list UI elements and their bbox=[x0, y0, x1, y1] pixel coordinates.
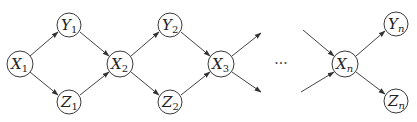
edge-xn-zn bbox=[356, 72, 385, 94]
node-y1: Y1 bbox=[57, 13, 81, 37]
edge-x1-y1 bbox=[30, 32, 58, 56]
edge-open-upper-xn bbox=[303, 30, 334, 56]
node-x3: X3 bbox=[208, 51, 234, 77]
edge-x2-z2 bbox=[131, 72, 159, 95]
node-yn: Yn bbox=[384, 12, 408, 36]
node-z1: Z1 bbox=[57, 90, 81, 114]
ellipsis: ··· bbox=[274, 55, 287, 71]
node-xn: Xn bbox=[332, 51, 358, 77]
edge-open-lower-xn bbox=[301, 72, 334, 92]
edge-y2-x3 bbox=[181, 32, 210, 56]
edge-x3-open-upper bbox=[232, 33, 261, 56]
edge-y1-x2 bbox=[80, 32, 109, 56]
node-y2: Y2 bbox=[158, 13, 182, 37]
edge-x2-y2 bbox=[131, 32, 159, 56]
node-x2: X2 bbox=[107, 51, 133, 77]
node-z2: Z2 bbox=[158, 90, 182, 114]
markov-chain-diagram: ··· X1 Y1 Z1 X2 Y2 Z2 X3 bbox=[0, 0, 417, 122]
nodes: X1 Y1 Z1 X2 Y2 Z2 X3 Xn bbox=[7, 12, 408, 114]
node-zn: Zn bbox=[384, 89, 408, 113]
edge-z2-x3 bbox=[181, 72, 210, 95]
edge-x1-z1 bbox=[30, 72, 58, 95]
edge-x3-open-lower bbox=[232, 72, 261, 92]
node-x1: X1 bbox=[7, 51, 33, 77]
edge-z1-x2 bbox=[80, 72, 109, 95]
edge-xn-yn bbox=[356, 31, 385, 56]
